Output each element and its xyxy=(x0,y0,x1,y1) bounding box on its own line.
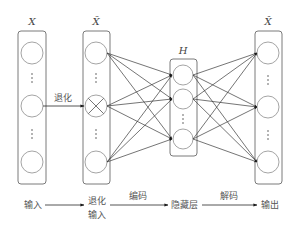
input-node-1 xyxy=(21,42,43,64)
encoder-connections xyxy=(107,53,172,162)
corruption-label: 退化 xyxy=(54,92,72,103)
output-node-2 xyxy=(257,96,279,118)
label-x: X xyxy=(27,16,36,27)
decoder-connections xyxy=(193,53,257,162)
label-x-hat: X̂ xyxy=(263,16,272,27)
corrupted-node-1 xyxy=(85,42,107,64)
corrupted-node-3 xyxy=(85,151,107,173)
output-node-3 xyxy=(257,151,279,173)
flow-output-label: 输出 xyxy=(261,199,279,210)
flow-hidden-label: 隐藏层 xyxy=(171,199,198,210)
hidden-layer-h xyxy=(170,59,197,156)
input-layer-x xyxy=(18,31,46,184)
flow-corrupted-label-2: 输入 xyxy=(88,209,106,220)
label-h: H xyxy=(178,45,188,56)
denoising-autoencoder-diagram: X X̃ H X̂ 退化 xyxy=(0,0,297,229)
flow-corrupted-label-1: 退化 xyxy=(88,195,106,206)
process-flow: 输入 退化 输入 编码 隐藏层 解码 输出 xyxy=(24,190,279,220)
output-node-1 xyxy=(257,42,279,64)
label-x-tilde: X̃ xyxy=(91,16,100,27)
hidden-node-3 xyxy=(173,129,193,149)
hidden-node-2 xyxy=(173,89,193,109)
input-node-3 xyxy=(21,151,43,173)
input-node-2 xyxy=(21,95,43,117)
flow-input-label: 输入 xyxy=(24,199,42,210)
corrupted-layer-x-tilde xyxy=(83,31,110,184)
flow-encode-label: 编码 xyxy=(129,190,147,201)
flow-decode-label: 解码 xyxy=(220,190,238,201)
hidden-node-1 xyxy=(173,65,193,85)
output-layer-x-hat xyxy=(255,31,282,184)
